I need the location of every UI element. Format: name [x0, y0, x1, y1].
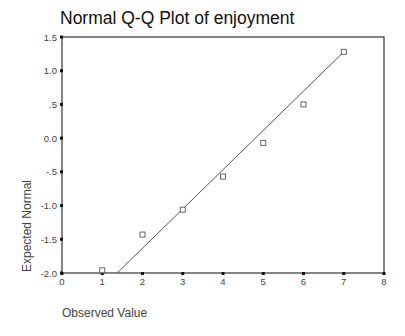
x-tick-mark: [302, 272, 305, 275]
data-point-marker: [301, 102, 306, 107]
x-tick-label: 2: [140, 276, 145, 287]
x-tick-label: 8: [381, 276, 386, 287]
y-tick-label: 1.0: [44, 65, 57, 76]
x-tick-mark: [342, 272, 345, 275]
qq-plot-area: 1.51.0.50.0-.5-1.0-1.5-2.0 012345678: [0, 0, 405, 336]
y-tick-label: -2.0: [41, 268, 57, 279]
data-point-marker: [221, 174, 226, 179]
data-point-marker: [261, 140, 266, 145]
y-tick-label: .5: [49, 99, 57, 110]
x-tick-mark: [141, 272, 144, 275]
data-points: [100, 49, 347, 272]
y-tick-mark: [60, 137, 63, 140]
y-axis: 1.51.0.50.0-.5-1.0-1.5-2.0: [41, 32, 63, 279]
data-point-marker: [180, 207, 185, 212]
reference-line-path: [117, 52, 344, 273]
plot-frame: [62, 37, 384, 273]
y-tick-mark: [60, 170, 63, 173]
y-tick-label: -1.0: [41, 200, 57, 211]
y-tick-mark: [60, 36, 63, 39]
y-tick-mark: [60, 204, 63, 207]
y-tick-label: -.5: [46, 166, 57, 177]
data-point-marker: [100, 268, 105, 273]
x-tick-label: 1: [100, 276, 105, 287]
y-tick-mark: [60, 238, 63, 241]
y-tick-label: 1.5: [44, 32, 57, 43]
reference-line: [117, 52, 344, 273]
x-tick-mark: [181, 272, 184, 275]
x-tick-label: 0: [59, 276, 64, 287]
x-tick-mark: [383, 272, 386, 275]
x-tick-label: 7: [341, 276, 346, 287]
y-tick-label: 0.0: [44, 133, 57, 144]
x-axis: 012345678: [59, 272, 386, 287]
y-tick-mark: [60, 103, 63, 106]
plot-border: [62, 37, 384, 273]
x-tick-mark: [61, 272, 64, 275]
x-tick-mark: [222, 272, 225, 275]
y-tick-label: -1.5: [41, 234, 57, 245]
x-tick-label: 6: [301, 276, 306, 287]
data-point-marker: [140, 232, 145, 237]
x-tick-mark: [262, 272, 265, 275]
data-point-marker: [341, 49, 346, 54]
x-tick-label: 4: [220, 276, 225, 287]
x-tick-label: 5: [261, 276, 266, 287]
y-tick-mark: [60, 69, 63, 72]
x-tick-label: 3: [180, 276, 185, 287]
